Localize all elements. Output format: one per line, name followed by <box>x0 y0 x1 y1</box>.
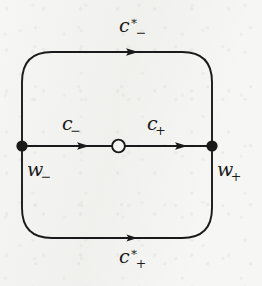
direction-arrowheads <box>77 48 188 241</box>
label-top-contour-base: c <box>119 14 130 36</box>
top-arc-path <box>22 52 212 146</box>
label-right-node: w+ <box>217 160 241 179</box>
label-right-node-subscript: + <box>231 169 242 184</box>
label-left-node: w− <box>27 160 51 179</box>
label-middle-right: c+ <box>147 114 166 133</box>
label-top-contour: c∗− <box>119 16 146 35</box>
label-middle-left-subscript: − <box>70 123 81 138</box>
label-bottom-contour: c∗+ <box>119 247 146 266</box>
label-bottom-contour-subscript: + <box>136 256 147 271</box>
figure-canvas: c∗− c∗+ c− c+ w− w+ <box>0 0 262 286</box>
node-midpoint-open-circle <box>112 140 125 153</box>
label-top-contour-subscript: − <box>136 25 147 40</box>
label-bottom-contour-base: c <box>119 245 130 267</box>
node-w-minus <box>16 140 27 151</box>
label-middle-left: c− <box>62 114 81 133</box>
node-w-plus <box>206 140 217 151</box>
label-middle-right-subscript: + <box>155 123 166 138</box>
contour-diagram-graphic <box>0 0 262 286</box>
label-left-node-subscript: − <box>41 169 52 184</box>
